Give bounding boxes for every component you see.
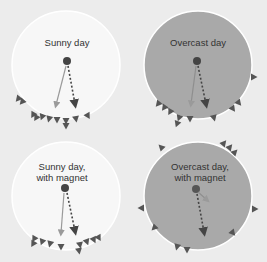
label-overcast-magnet: Overcast day, with magnet bbox=[168, 161, 232, 183]
panel-overcast bbox=[144, 11, 258, 128]
panel-sunny-magnet bbox=[12, 142, 120, 255]
panel-overcast-magnet bbox=[138, 138, 259, 253]
sunny-circle bbox=[12, 11, 120, 119]
diagram: Sunny day Overcast day Sunny day, with m… bbox=[0, 0, 267, 262]
label-sunny: Sunny day bbox=[22, 37, 112, 48]
overcast-magnet-circle bbox=[144, 142, 252, 250]
label-overcast: Overcast day bbox=[153, 37, 243, 48]
center-dot-icon bbox=[192, 185, 200, 193]
center-dot-icon bbox=[193, 57, 201, 65]
panel-sunny bbox=[12, 11, 120, 130]
sunny-magnet-circle bbox=[12, 142, 120, 250]
center-dot-icon bbox=[61, 184, 69, 192]
center-dot-icon bbox=[63, 57, 71, 65]
label-sunny-magnet: Sunny day, with magnet bbox=[33, 161, 91, 183]
